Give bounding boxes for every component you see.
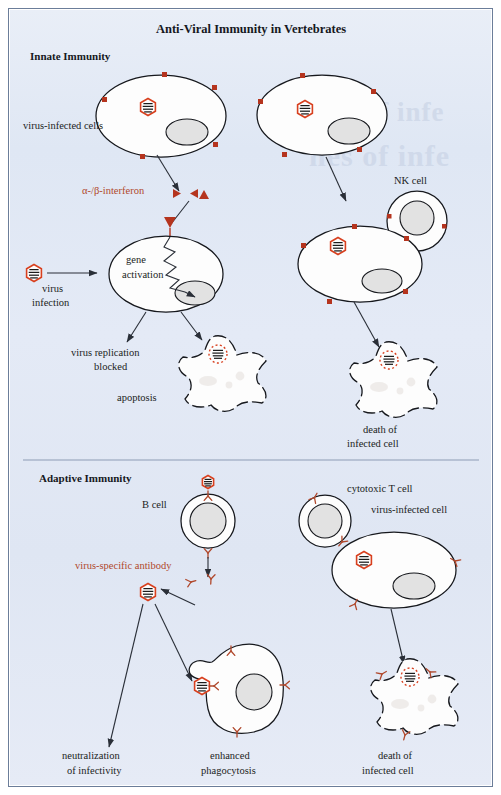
virus-particle-icon [141, 584, 156, 601]
label-virus-infected-cells: virus-infected cells [23, 120, 103, 131]
antibody-y-icon [204, 549, 212, 558]
mhc-receptor-icon [376, 668, 388, 679]
arrow-to-phagocytosis [155, 604, 192, 681]
arrow-to-replication-blocked [127, 312, 146, 342]
label-interferon: α-/β-interferon [82, 185, 145, 196]
cell-apoptotic-left [179, 336, 266, 412]
virus-particle-icon [195, 678, 210, 695]
label-neutralization-2: of infectivity [67, 765, 122, 776]
label-gene-activation-2: activation [122, 269, 164, 280]
label-cytotoxic-t-cell: cytotoxic T cell [347, 483, 413, 494]
label-apoptosis: apoptosis [117, 392, 157, 403]
label-replication-blocked-1: virus replication [71, 347, 140, 358]
label-virus-specific-antibody: virus-specific antibody [75, 560, 172, 571]
cell-dead-adaptive [371, 659, 458, 741]
arrow-to-cell-death-innate [354, 302, 379, 347]
cell-virus-infected-right [257, 73, 387, 157]
arrow-to-nk-target-cell [326, 157, 346, 201]
antibody-y-icon [207, 574, 215, 584]
figure-panel: mes of infe nes of infe [8, 8, 493, 787]
label-b-cell: B cell [142, 499, 167, 510]
label-death-adaptive-2: infected cell [362, 765, 414, 776]
label-death-innate-1: death of [363, 424, 398, 435]
virus-particle-icon [27, 265, 42, 282]
label-virus-infection-1: virus [42, 283, 63, 294]
virus-particle-icon [298, 101, 313, 118]
cell-t-target [332, 532, 461, 610]
diagram-canvas: Anti-Viral Immunity in Vertebrates Innat… [9, 9, 493, 787]
label-phagocytosis-2: phagocytosis [201, 765, 256, 776]
cell-dead-innate [350, 342, 437, 418]
virus-particle-icon [331, 238, 346, 255]
label-neutralization-1: neutralization [62, 750, 120, 761]
cell-gene-activation: gene activation [109, 236, 223, 312]
arrow-to-cell-death-adaptive [391, 609, 404, 664]
section-heading-adaptive: Adaptive Immunity [39, 472, 132, 484]
cell-macrophage [189, 644, 289, 737]
receptor-bound-interferon-icon [164, 217, 176, 228]
arrow-to-apoptosis [181, 312, 202, 340]
label-virus-infection-2: infection [32, 297, 70, 308]
figure-title: Anti-Viral Immunity in Vertebrates [156, 22, 346, 36]
cell-cytotoxic-t [299, 491, 351, 548]
virus-particle-icon [357, 552, 372, 569]
label-nk-cell: NK cell [394, 175, 427, 186]
label-death-adaptive-1: death of [378, 750, 413, 761]
cell-virus-infected-left [96, 72, 226, 159]
arrow-to-neutralization [109, 604, 143, 747]
virus-particle-icon [141, 99, 156, 116]
arrow-antibody-to-virus [161, 589, 195, 605]
label-virus-infected-cell-adaptive: virus-infected cell [371, 504, 447, 515]
label-gene-activation-1: gene [126, 254, 146, 265]
label-death-innate-2: infected cell [347, 438, 399, 449]
arrow-to-interferon [157, 155, 179, 191]
antibody-y-icon [186, 577, 197, 587]
label-phagocytosis-1: enhanced [210, 750, 250, 761]
virus-particle-icon [202, 476, 213, 489]
section-heading-innate: Innate Immunity [30, 50, 111, 62]
label-replication-blocked-2: blocked [94, 361, 128, 372]
cell-b [181, 491, 235, 558]
